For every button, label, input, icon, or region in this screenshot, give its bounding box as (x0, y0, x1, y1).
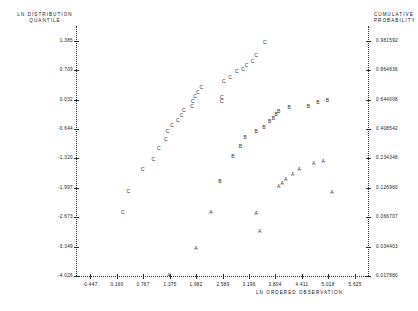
secondary-y-axis-tick-label: 0.864836 (376, 67, 398, 72)
secondary-y-axis-tick (366, 100, 371, 101)
x-axis-tick-label: 5.625 (337, 282, 373, 287)
data-point-c: C (222, 79, 226, 84)
data-point-c: C (193, 94, 197, 99)
y-axis-tick-label: -1.997 (10, 185, 73, 190)
secondary-y-axis-tick (366, 217, 371, 218)
data-point-b: B (288, 104, 291, 109)
x-axis-tick (143, 274, 144, 279)
secondary-y-axis-tick (366, 188, 371, 189)
data-point-c: C (251, 58, 255, 63)
data-point-c: C (199, 84, 203, 89)
data-point-c: C (245, 62, 249, 67)
secondary-y-axis-tick-label: 0.034403 (376, 244, 398, 249)
data-point-c: C (254, 52, 258, 57)
y-axis-tick-label: 0.709 (10, 67, 73, 72)
y-axis-tick-label: -2.673 (10, 214, 73, 219)
secondary-y-axis-tick-label: 0.066707 (376, 214, 398, 219)
data-point-a: A (254, 211, 257, 216)
x-axis-tick (328, 274, 329, 279)
data-point-b: B (244, 135, 247, 140)
secondary-y-axis-tick (366, 276, 371, 277)
data-point-b: B (268, 119, 271, 124)
data-point-c: C (170, 123, 174, 128)
data-point-b: B (218, 178, 221, 183)
secondary-y-axis-tick-label: 0.017880 (376, 273, 398, 278)
y-axis-tick (74, 217, 79, 218)
data-point-b: B (239, 144, 242, 149)
y-axis-tick (74, 158, 79, 159)
secondary-y-axis-tick (366, 158, 371, 159)
data-point-c: C (190, 103, 194, 108)
y-axis-tick-label: -4.026 (10, 273, 73, 278)
y-axis-tick-label: -3.349 (10, 244, 73, 249)
y-axis-title: LN DISTRIBUTIONQUANTILE (14, 12, 76, 24)
data-point-a: A (291, 172, 294, 177)
y-axis-tick-label: 1.385 (10, 38, 73, 43)
data-point-a: A (258, 228, 261, 233)
data-point-c: C (121, 210, 125, 215)
data-point-c: C (182, 108, 186, 113)
data-point-c: C (228, 74, 232, 79)
data-point-c: C (235, 68, 239, 73)
data-point-c: C (166, 128, 170, 133)
x-axis-tick (302, 274, 303, 279)
y-axis-tick (74, 247, 79, 248)
y-axis-tick (74, 129, 79, 130)
data-point-a: A (312, 161, 315, 166)
data-point-c: C (157, 146, 161, 151)
x-axis-title: LN ORDERED OBSERVATION (256, 290, 343, 295)
y-axis-tick (74, 100, 79, 101)
secondary-y-axis-tick (366, 129, 371, 130)
y-axis-line (76, 26, 77, 276)
data-point-a: A (322, 158, 325, 163)
x-axis-tick (90, 274, 91, 279)
x-axis-tick (117, 274, 118, 279)
y-axis-tick (74, 41, 79, 42)
data-point-a: A (298, 166, 301, 171)
secondary-y-axis-tick (366, 247, 371, 248)
data-point-c: C (220, 98, 224, 103)
secondary-y-axis-tick-label: 0.234348 (376, 155, 398, 160)
x-axis-tick (355, 274, 356, 279)
y-axis-tick-label: -0.644 (10, 126, 73, 131)
y-axis-tick-label: -1.320 (10, 155, 73, 160)
secondary-y-axis-tick-label: 0.408542 (376, 126, 398, 131)
x-axis-tick (223, 274, 224, 279)
y-axis-tick-label: 0.032 (10, 97, 73, 102)
x-axis-tick (249, 274, 250, 279)
secondary-y-axis-tick (366, 70, 371, 71)
data-point-c: C (191, 98, 195, 103)
data-point-a: A (284, 177, 287, 182)
y-axis-tick (74, 188, 79, 189)
data-point-a: A (167, 273, 170, 278)
data-point-b: B (316, 99, 319, 104)
data-point-b: B (307, 103, 310, 108)
data-point-c: C (180, 113, 184, 118)
data-point-b: B (231, 154, 234, 159)
x-axis-tick (196, 274, 197, 279)
data-point-a: A (194, 245, 197, 250)
secondary-y-axis-title: CUMULATIVEPROBABILITY (374, 12, 416, 24)
secondary-y-axis-tick-label: 0.126960 (376, 185, 398, 190)
x-axis-tick (275, 274, 276, 279)
data-point-c: C (196, 89, 200, 94)
secondary-y-axis-tick-label: 0.981592 (376, 38, 398, 43)
secondary-y-axis-tick (366, 41, 371, 42)
data-point-b: B (326, 97, 329, 102)
secondary-y-axis-line (368, 26, 369, 276)
data-point-c: C (141, 166, 145, 171)
y-axis-tick (74, 276, 79, 277)
data-point-b: B (262, 125, 265, 130)
secondary-y-axis-tick-label: 0.644008 (376, 97, 398, 102)
data-point-c: C (164, 136, 168, 141)
data-point-c: C (263, 40, 267, 45)
data-point-a: A (209, 210, 212, 215)
data-point-b: B (277, 108, 280, 113)
data-point-b: B (254, 128, 257, 133)
data-point-c: C (127, 189, 131, 194)
y-axis-tick (74, 70, 79, 71)
data-point-c: C (151, 156, 155, 161)
data-point-c: C (176, 117, 180, 122)
data-point-a: A (330, 189, 333, 194)
